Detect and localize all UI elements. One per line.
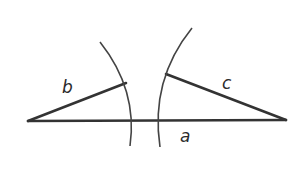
label-a: a (180, 126, 190, 146)
segment-b (28, 83, 126, 121)
label-c: c (222, 73, 232, 93)
diagram-canvas: b c a (0, 0, 299, 188)
arc-b (100, 42, 131, 146)
label-b: b (62, 77, 73, 97)
triangle-construction-diagram: b c a (0, 0, 299, 188)
segment-a (28, 120, 286, 121)
